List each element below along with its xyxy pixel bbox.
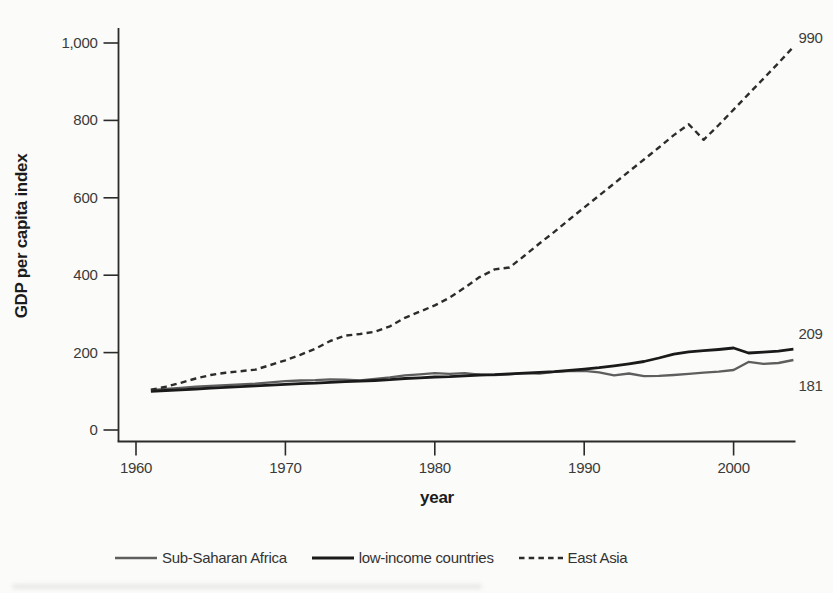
x-tick-label: 1990 xyxy=(568,459,600,476)
series-line-east-asia xyxy=(151,47,794,390)
chart-canvas: year GDP per capita index 02004006008001… xyxy=(0,0,833,593)
series-end-label-east-asia: 990 xyxy=(798,29,822,46)
dashed-line-icon xyxy=(518,553,564,563)
legend-label: Sub-Saharan Africa xyxy=(162,549,287,566)
solid-line-icon xyxy=(114,553,158,563)
legend-label: low-income countries xyxy=(359,549,494,566)
y-tick-label: 200 xyxy=(73,344,97,361)
series-end-label-low-income-countries: 209 xyxy=(798,325,822,342)
legend: Sub-Saharan Africa low-income countries … xyxy=(114,549,627,566)
y-axis-title: GDP per capita index xyxy=(12,153,31,319)
legend-item-sub-saharan-africa: Sub-Saharan Africa xyxy=(114,549,287,566)
x-tick-label: 2000 xyxy=(718,459,750,476)
legend-item-low-income-countries: low-income countries xyxy=(311,549,494,566)
y-tick-label: 400 xyxy=(73,266,97,283)
y-tick-label: 600 xyxy=(73,189,97,206)
y-tick-label: 0 xyxy=(89,421,97,438)
y-tick-label: 800 xyxy=(73,111,97,128)
x-tick-label: 1980 xyxy=(419,459,451,476)
legend-label: East Asia xyxy=(568,549,628,566)
x-axis-title: year xyxy=(420,488,454,507)
series-end-label-sub-saharan-africa: 181 xyxy=(798,377,822,394)
figure: year GDP per capita index 02004006008001… xyxy=(0,0,833,593)
legend-item-east-asia: East Asia xyxy=(518,549,628,566)
y-tick-label: 1,000 xyxy=(61,34,97,51)
solid-line-icon xyxy=(311,553,355,563)
x-tick-label: 1970 xyxy=(269,459,301,476)
x-tick-label: 1960 xyxy=(120,459,152,476)
